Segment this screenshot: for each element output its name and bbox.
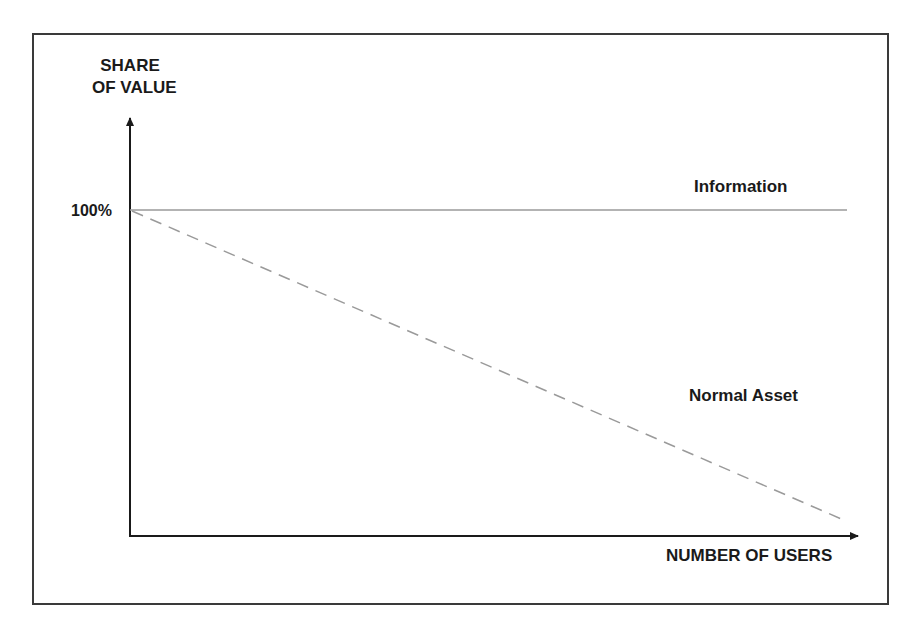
y-axis-label: SHARE OF VALUE — [92, 55, 168, 99]
normal-asset-series-label: Normal Asset — [689, 385, 798, 407]
y-tick-100: 100% — [71, 200, 112, 222]
y-axis-label-line1: SHARE — [92, 55, 168, 77]
information-series-label: Information — [694, 176, 788, 198]
y-axis-label-line2: OF VALUE — [92, 77, 168, 99]
x-axis-label: NUMBER OF USERS — [666, 545, 832, 567]
normal-asset-line — [132, 211, 846, 521]
